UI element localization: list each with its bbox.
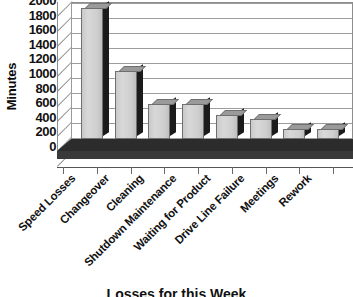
bar [148,104,170,139]
plot-area [57,2,353,172]
bar [250,119,272,139]
x-axis-category-labels: Speed LossesChangeoverCleaningShutdown M… [0,170,353,275]
bar-front-face [283,129,305,139]
y-axis-tick-label: 400 [36,111,57,124]
y-axis-tick-label: 200 [36,125,57,138]
y-axis-tick-label: 1800 [29,9,56,22]
x-axis-line [57,167,353,168]
y-axis-tick-label: 1200 [29,52,56,65]
bars-layer [57,2,353,172]
bar-chart: Minutes 20001800160014001200100080060040… [0,0,353,297]
bar-side-face [137,64,143,136]
y-axis-tick-label: 1000 [29,67,56,80]
bar [317,129,339,139]
bar [115,71,137,139]
y-axis-tick-label: 800 [36,82,57,95]
y-axis-tick-label: 1400 [29,38,56,51]
y-axis-tick-label: 600 [36,96,57,109]
bar-front-face [115,71,137,139]
y-axis-tick-label: 0 [49,140,56,153]
y-axis-tick-labels: 2000180016001400120010008006004002000 [14,0,56,168]
bar-front-face [148,104,170,139]
bar-front-face [81,8,103,139]
chart-title: Losses for this Week [0,286,353,297]
bar-front-face [250,119,272,139]
bar [182,104,204,139]
bar [283,129,305,139]
bar [81,8,103,139]
y-axis-tick-label: 2000 [29,0,56,7]
bar-front-face [317,129,339,139]
y-axis-tick-label: 1600 [29,23,56,36]
bar-front-face [182,104,204,139]
bar-front-face [216,115,238,139]
bar-side-face [103,1,109,136]
bar [216,115,238,139]
